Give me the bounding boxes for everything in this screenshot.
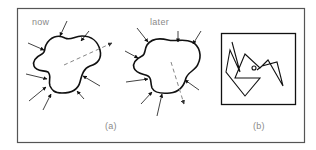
label-later: later [150, 17, 169, 27]
random-walk-start-dot [252, 66, 256, 70]
particle-later [125, 28, 201, 116]
figure: now later (a) (b) [0, 0, 316, 150]
random-walk-panel [222, 34, 296, 105]
caption-b: (b) [253, 121, 265, 131]
label-now: now [32, 17, 49, 27]
caption-a: (a) [105, 121, 117, 131]
particle-now [26, 21, 112, 110]
